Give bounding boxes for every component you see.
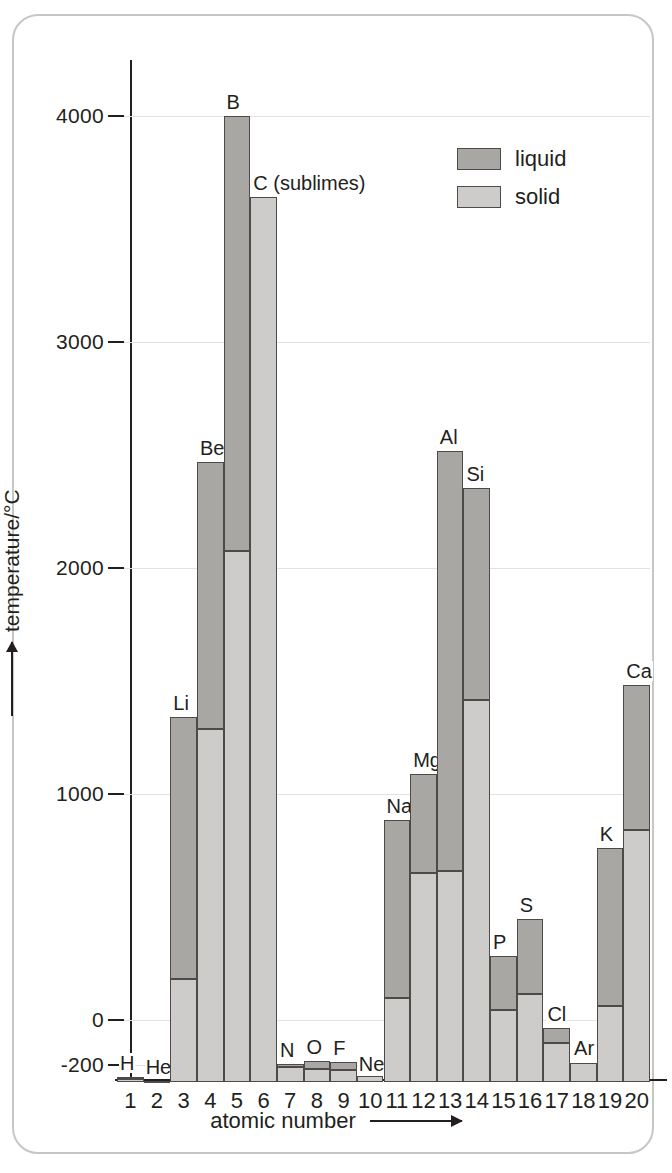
bar-na[interactable]: [384, 820, 411, 1081]
bar-label-be: Be: [199, 438, 225, 458]
bar-label-si: Si: [465, 464, 485, 484]
bar-mg[interactable]: [410, 774, 437, 1082]
legend-swatch-liquid: [457, 148, 501, 170]
bar-segment-solid: [357, 1076, 384, 1081]
bar-segment-liquid: [623, 685, 650, 830]
bar-segment-liquid: [304, 1061, 331, 1069]
bar-be[interactable]: [197, 462, 224, 1082]
bar-f[interactable]: [330, 1062, 357, 1081]
bar-label-f: F: [332, 1038, 346, 1058]
bar-label-he: He: [145, 1057, 173, 1077]
y-tick-label: 4000: [56, 105, 118, 126]
bar-segment-liquid: [597, 848, 624, 1005]
chart-frame: 40003000200010000-200 HHeLiBeBC (sublime…: [12, 14, 654, 1154]
bar-segment-solid: [250, 197, 277, 1082]
bar-label-h: H: [119, 1053, 135, 1073]
bar-segment-solid: [410, 873, 437, 1082]
bar-segment-solid: [597, 1006, 624, 1082]
bar-segment-solid: [224, 551, 251, 1082]
bar-b[interactable]: [224, 116, 251, 1082]
bar-al[interactable]: [437, 451, 464, 1082]
bar-label-ar: Ar: [573, 1038, 595, 1058]
bar-label-ca: Ca: [625, 661, 653, 681]
x-axis-title: atomic number: [0, 1108, 672, 1134]
bar-segment-solid: [570, 1063, 597, 1082]
bar-segment-liquid: [384, 820, 411, 997]
y-tick-label: 3000: [56, 331, 118, 352]
bar-segment-solid: [197, 729, 224, 1082]
bar-s[interactable]: [517, 919, 544, 1081]
bar-label-cl: Cl: [546, 1004, 567, 1024]
bar-k[interactable]: [597, 848, 624, 1081]
bar-h[interactable]: [117, 1077, 144, 1082]
bar-segment-solid: [437, 871, 464, 1082]
bar-segment-solid: [490, 1010, 517, 1082]
bar-label-b: B: [226, 92, 241, 112]
bar-ca[interactable]: [623, 685, 650, 1082]
gridline: [117, 116, 650, 117]
legend-item-solid: solid: [457, 182, 566, 212]
bar-label-c: C (sublimes): [252, 173, 366, 193]
bar-n[interactable]: [277, 1064, 304, 1081]
bar-segment-liquid: [170, 717, 197, 980]
y-axis-line: [130, 60, 132, 1080]
bar-c[interactable]: [250, 197, 277, 1082]
bar-segment-solid: [277, 1067, 304, 1081]
bar-ar[interactable]: [570, 1062, 597, 1082]
bar-segment-solid: [384, 998, 411, 1082]
bar-segment-solid: [463, 700, 490, 1081]
bar-segment-solid: [623, 830, 650, 1082]
bar-segment-liquid: [410, 774, 437, 873]
bar-segment-liquid: [517, 919, 544, 994]
y-tick-label: 1000: [56, 783, 118, 804]
bar-segment-liquid: [437, 451, 464, 871]
y-axis-title-text: temperature/°C: [0, 489, 24, 632]
bar-label-o: O: [306, 1037, 324, 1057]
bar-cl[interactable]: [543, 1028, 570, 1082]
x-axis-arrow-icon: [370, 1120, 462, 1122]
y-axis-arrow-icon: [11, 642, 13, 716]
legend-label-solid: solid: [515, 186, 560, 208]
bar-segment-solid: [170, 979, 197, 1081]
y-tick-label: -200: [61, 1054, 118, 1075]
y-axis-title: temperature/°C: [0, 456, 24, 716]
bar-segment-solid: [330, 1070, 357, 1082]
bar-label-al: Al: [439, 427, 459, 447]
bar-segment-solid: [144, 1081, 171, 1083]
legend-swatch-solid: [457, 186, 501, 208]
bar-label-ne: Ne: [358, 1054, 386, 1074]
bar-label-s: S: [519, 895, 534, 915]
bar-ne[interactable]: [357, 1076, 384, 1082]
y-tick-label: 0: [92, 1009, 118, 1030]
bar-segment-liquid: [490, 956, 517, 1010]
bar-o[interactable]: [304, 1061, 331, 1081]
bar-label-na: Na: [386, 796, 414, 816]
bar-segment-solid: [543, 1043, 570, 1082]
gridline: [117, 342, 650, 343]
bar-label-p: P: [492, 932, 507, 952]
y-tick-label: 2000: [56, 557, 118, 578]
x-axis-title-text: atomic number: [210, 1108, 356, 1134]
bar-segment-solid: [517, 994, 544, 1082]
legend-item-liquid: liquid: [457, 144, 566, 174]
legend-label-liquid: liquid: [515, 148, 566, 170]
bar-segment-liquid: [224, 116, 251, 551]
bar-segment-solid: [304, 1069, 331, 1081]
bar-segment-solid: [117, 1079, 144, 1082]
bar-label-n: N: [279, 1040, 295, 1060]
bar-segment-liquid: [197, 462, 224, 729]
bar-segment-liquid: [330, 1062, 357, 1069]
bar-label-li: Li: [172, 693, 190, 713]
chart-legend: liquid solid: [457, 144, 566, 220]
bar-segment-liquid: [543, 1028, 570, 1043]
bar-si[interactable]: [463, 488, 490, 1082]
bar-he[interactable]: [144, 1081, 171, 1082]
bar-segment-liquid: [463, 488, 490, 701]
bar-label-k: K: [599, 824, 614, 844]
bar-p[interactable]: [490, 956, 517, 1081]
bar-li[interactable]: [170, 717, 197, 1082]
